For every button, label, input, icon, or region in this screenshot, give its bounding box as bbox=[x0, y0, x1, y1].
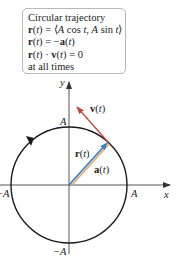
top-intercept-label: A bbox=[60, 117, 66, 128]
bottom-intercept-label: −A bbox=[53, 247, 67, 258]
left-intercept-label: −A bbox=[0, 189, 10, 200]
velocity-label: v(t) bbox=[90, 104, 105, 115]
position-label: r(t) bbox=[75, 149, 90, 160]
acceleration-label: a(t) bbox=[94, 165, 109, 176]
y-axis-label: y bbox=[60, 78, 65, 89]
x-axis-label: x bbox=[164, 190, 169, 201]
right-intercept-label: A bbox=[131, 189, 137, 200]
